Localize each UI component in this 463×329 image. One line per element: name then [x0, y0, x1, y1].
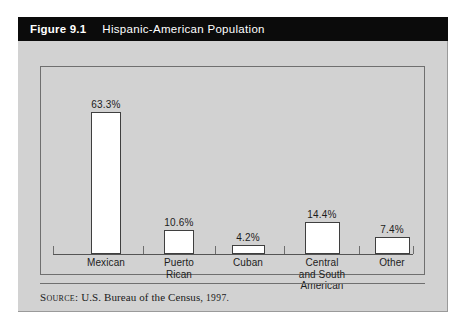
category-label-line: Puerto	[149, 257, 209, 269]
category-label: Centraland SouthAmerican	[285, 257, 359, 292]
bar-value-label: 10.6%	[164, 217, 193, 228]
bar-value-label: 14.4%	[307, 209, 336, 220]
bar-rect	[91, 112, 121, 254]
chart-plot-area: 63.3%10.6%4.2%14.4%7.4% MexicanPuertoRic…	[41, 67, 424, 274]
bar-group: 4.2%	[212, 232, 285, 254]
category-label-line: and South	[285, 269, 359, 281]
axis-tick	[53, 246, 54, 254]
category-label: Cuban	[218, 257, 278, 269]
bar-group: 7.4%	[355, 224, 430, 254]
bar-value-label: 7.4%	[380, 224, 404, 235]
bar-rect	[164, 230, 194, 254]
source-text: U.S. Bureau of the Census,	[81, 291, 203, 303]
bar-value-label: 63.3%	[91, 99, 120, 110]
category-label-line: Central	[285, 257, 359, 269]
x-axis-line	[53, 254, 413, 255]
bar-group: 63.3%	[71, 99, 141, 254]
category-label: PuertoRican	[149, 257, 209, 280]
figure-header: Figure 9.1 Hispanic-American Population	[18, 17, 448, 41]
source-note: Source: U.S. Bureau of the Census, 1997.	[40, 291, 229, 303]
figure-card: Figure 9.1 Hispanic-American Population …	[18, 17, 448, 312]
figure-title: Hispanic-American Population	[102, 23, 264, 35]
chart-plot-frame: 63.3%10.6%4.2%14.4%7.4% MexicanPuertoRic…	[40, 66, 425, 275]
bar-rect	[375, 237, 410, 254]
category-label: Mexican	[71, 257, 141, 269]
category-label-line: Rican	[149, 269, 209, 281]
bar-rect	[305, 222, 340, 254]
figure-number: Figure 9.1	[30, 23, 86, 35]
source-label: Source:	[40, 291, 78, 303]
category-label-line: Cuban	[218, 257, 278, 269]
category-label-line: Mexican	[71, 257, 141, 269]
source-year: 1997.	[206, 293, 229, 303]
bar-group: 14.4%	[285, 209, 360, 254]
category-label-line: Other	[362, 257, 422, 269]
bar-group: 10.6%	[144, 217, 214, 254]
bar-value-label: 4.2%	[236, 232, 260, 243]
category-label: Other	[362, 257, 422, 269]
bar-rect	[232, 245, 265, 254]
source-divider	[40, 283, 425, 284]
category-label-line: American	[285, 280, 359, 292]
